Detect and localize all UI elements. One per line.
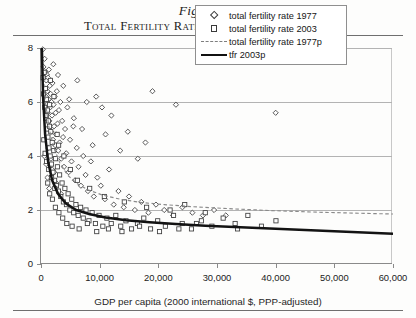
data-point <box>146 210 151 215</box>
data-point <box>60 135 65 140</box>
data-point <box>79 126 84 131</box>
data-point <box>125 129 130 134</box>
x-tick-mark-0 <box>41 264 42 268</box>
data-point <box>61 83 66 88</box>
data-point <box>102 194 106 198</box>
data-layer <box>41 48 393 264</box>
y-tick-label-2: 2 <box>0 204 33 215</box>
data-point <box>145 205 149 209</box>
data-point <box>148 227 152 231</box>
data-point <box>56 148 61 153</box>
data-point <box>95 230 99 234</box>
dashed-line-glyph <box>201 41 227 42</box>
data-point <box>94 94 99 99</box>
data-point <box>126 194 131 199</box>
data-point <box>71 124 76 129</box>
data-point <box>150 89 155 94</box>
data-point <box>77 227 81 231</box>
legend-label: total fertility rate 1977p <box>229 37 322 47</box>
x-tick-label-60000: 60,000 <box>379 272 408 283</box>
data-point <box>70 224 74 228</box>
legend-item-3[interactable]: tfr 2003p <box>199 48 342 61</box>
data-point <box>48 78 52 82</box>
data-point <box>162 207 167 212</box>
data-point <box>76 164 81 169</box>
data-point <box>173 102 178 107</box>
data-point <box>135 156 140 161</box>
data-point <box>88 159 93 164</box>
x-tick-label-50000: 50,000 <box>320 272 349 283</box>
data-point <box>55 72 60 77</box>
data-point <box>54 89 59 94</box>
data-point <box>63 186 67 190</box>
data-point <box>106 167 111 172</box>
data-point <box>50 197 54 201</box>
legend-label: total fertility rate 2003 <box>229 24 317 34</box>
data-point <box>93 221 97 225</box>
data-point <box>85 221 89 225</box>
data-point <box>273 110 278 115</box>
data-point <box>75 178 79 182</box>
figure-container: Figure 8.1 Total Fertility Rate vs. Weal… <box>0 0 416 318</box>
data-point <box>53 205 57 209</box>
data-point <box>81 153 86 158</box>
x-tick-label-20000: 20,000 <box>144 272 173 283</box>
x-tick-mark-40000 <box>276 264 277 268</box>
data-point <box>68 167 72 171</box>
data-point <box>48 192 52 196</box>
x-tick-label-0: 0 <box>38 272 43 283</box>
data-point <box>72 211 76 215</box>
data-point <box>118 148 123 153</box>
x-tick-label-10000: 10,000 <box>85 272 114 283</box>
series-diamond <box>40 47 278 218</box>
data-point <box>74 203 78 207</box>
data-point <box>81 216 85 220</box>
data-point <box>116 189 121 194</box>
data-point <box>78 183 83 188</box>
data-point <box>60 118 65 123</box>
square-marker-glyph <box>211 25 217 31</box>
data-point <box>129 227 133 231</box>
data-point <box>61 216 65 220</box>
data-point <box>52 95 56 99</box>
legend-item-1[interactable]: total fertility rate 2003 <box>199 22 342 35</box>
data-point <box>65 221 69 225</box>
chart-legend: total fertility rate 1977total fertility… <box>195 5 347 65</box>
data-point <box>189 227 193 231</box>
data-point <box>83 172 88 177</box>
data-point <box>46 181 50 185</box>
data-point <box>153 202 158 207</box>
data-point <box>57 143 61 147</box>
data-point <box>76 213 80 217</box>
y-tick-label-8: 8 <box>0 42 33 53</box>
data-point <box>75 78 80 83</box>
data-point <box>163 224 167 228</box>
data-point <box>62 154 66 158</box>
data-point <box>101 224 105 228</box>
x-tick-mark-50000 <box>334 264 335 268</box>
data-point <box>66 192 70 196</box>
data-point <box>47 103 51 107</box>
data-point <box>90 143 95 148</box>
legend-item-0[interactable]: total fertility rate 1977 <box>199 9 342 22</box>
data-point <box>221 216 225 220</box>
data-point <box>60 181 64 185</box>
data-point <box>171 213 175 217</box>
x-tick-mark-20000 <box>158 264 159 268</box>
data-point <box>51 62 56 67</box>
data-point <box>50 140 54 144</box>
data-point <box>137 224 141 228</box>
data-point <box>246 213 250 217</box>
data-point <box>199 219 203 223</box>
solid-line-glyph <box>201 54 227 56</box>
data-point <box>58 99 63 104</box>
x-axis-title: GDP per capita (2000 international $, PP… <box>0 296 416 307</box>
y-tick-label-0: 0 <box>0 258 33 269</box>
data-point <box>106 227 110 231</box>
data-point <box>74 145 79 150</box>
trendline-solid <box>42 48 393 234</box>
legend-item-2[interactable]: total fertility rate 1977p <box>199 35 342 48</box>
data-point <box>55 165 59 169</box>
data-point <box>168 208 172 212</box>
data-point <box>233 221 237 225</box>
